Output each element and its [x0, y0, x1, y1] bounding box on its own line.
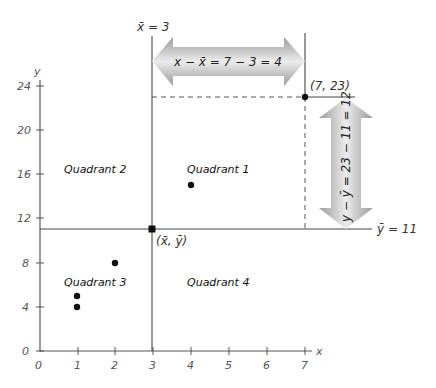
quadrant-2-label: Quadrant 2	[64, 163, 126, 176]
quadrant-3-label: Quadrant 3	[64, 276, 126, 289]
y-tick-label: 16	[17, 168, 31, 181]
ybar-reference-line: ȳ = 11	[40, 222, 417, 236]
horizontal-arrow-label: x − x̄ = 7 − 3 = 4	[173, 55, 282, 69]
x-tick-label: 4	[187, 359, 194, 372]
y-axis-label: y	[33, 65, 41, 78]
scatter-diagram: y 0 4 8 12 16 20 24 x 0 1	[0, 0, 436, 388]
x-tick-label: 3	[149, 359, 156, 372]
data-point	[74, 304, 80, 310]
mean-point-marker	[149, 226, 156, 233]
x-tick-label: 2	[111, 359, 118, 372]
y-tick-label: 12	[17, 212, 31, 225]
mean-point-label: (x̄, ȳ)	[156, 234, 187, 248]
ybar-label: ȳ = 11	[376, 222, 417, 236]
x-axis-label: x	[315, 345, 323, 358]
highlight-point-label: (7, 23)	[310, 79, 350, 93]
x-tick-label: 7	[301, 359, 308, 372]
xbar-label: x̄ = 3	[136, 20, 169, 34]
x-tick-label: 5	[225, 359, 232, 372]
vertical-deviation-arrow: y − ȳ = 23 − 11 = 12	[319, 91, 373, 229]
highlight-point	[302, 94, 308, 100]
vertical-arrow-label: y − ȳ = 23 − 11 = 12	[339, 91, 353, 223]
x-axis: x 0 1 2 3 4 5 6 7	[35, 345, 323, 372]
y-axis: y 0 4 8 12 16 20 24	[17, 65, 44, 358]
x-tick-label: 1	[74, 359, 81, 372]
quadrant-4-label: Quadrant 4	[187, 276, 249, 289]
x-tick-label: 0	[35, 359, 42, 372]
y-tick-label: 0	[22, 345, 29, 358]
quadrant-1-label: Quadrant 1	[187, 163, 249, 176]
x-tick-label: 6	[263, 359, 270, 372]
y-tick-label: 8	[22, 257, 29, 270]
data-point	[74, 293, 80, 299]
y-tick-label: 24	[17, 80, 31, 93]
horizontal-deviation-arrow: x − x̄ = 7 − 3 = 4	[152, 37, 305, 86]
y-tick-label: 20	[17, 124, 31, 137]
data-point	[112, 260, 118, 266]
y-tick-label: 4	[22, 301, 29, 314]
data-point	[188, 182, 194, 188]
